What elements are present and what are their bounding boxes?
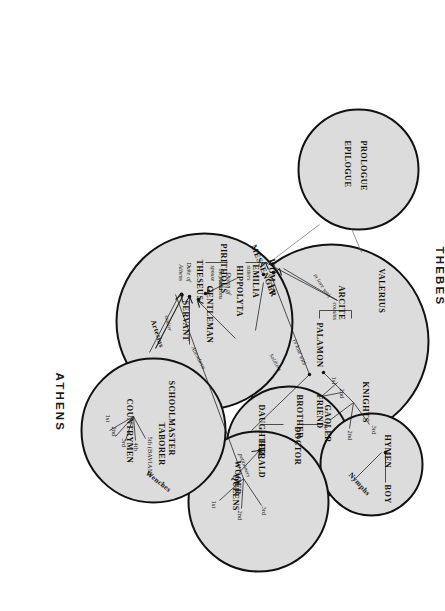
rel-spouse: spouse <box>209 265 215 281</box>
queen-ordinal-2nd: 2nd <box>236 510 243 520</box>
queen-ordinal-1st: 1st <box>210 500 217 508</box>
friend-ordinal-2nd: 2nd <box>338 388 345 398</box>
label-doctor: DOCTOR <box>292 426 301 465</box>
label-hymen: HYMEN <box>382 434 391 468</box>
label-knights: KNIGHTS <box>360 381 369 422</box>
theseus-role-line2: Athens <box>176 264 183 281</box>
rel-friend: friend <box>217 276 223 290</box>
label-servant: SERVANT <box>180 300 189 341</box>
friend-ordinal-1st: 1st <box>330 376 337 384</box>
label-gaoler: GAOLER <box>322 404 331 442</box>
queen-ordinal-3rd: 3rd <box>260 506 267 515</box>
label-hippolyta-main: HIPPOLYTA <box>234 265 243 316</box>
label-valerius: VALERIUS <box>376 268 385 313</box>
label-gentleman: GENTLEMAN <box>204 285 213 343</box>
label-prologue: PROLOGUE <box>358 140 367 190</box>
theseus-role-line1: Duke of <box>184 262 191 281</box>
knight-ordinal-3rd: 3rd <box>370 425 377 434</box>
group-label-thebes: THEBES <box>433 246 445 306</box>
countryman-ordinal-4th: 4th <box>132 442 139 450</box>
label-herald: HERALD <box>256 440 265 478</box>
label-taborer: TABORER <box>156 422 165 465</box>
label-boy: BOY <box>382 484 391 503</box>
label-countrymen: COUNTRYMEN <box>124 398 133 463</box>
countryman-ordinal-2nd: 2nd <box>110 426 117 436</box>
rel-sisters: sisters <box>245 265 251 280</box>
label-queens: QUEENS <box>230 474 239 510</box>
countryman-ordinal-1st: 1st <box>104 414 111 422</box>
hippolyta-role-line1: Queen of <box>224 272 231 294</box>
countryman-ordinal-3rd: 3rd <box>120 438 127 447</box>
knight-ordinal-2nd: 2nd <box>346 430 353 440</box>
label-woman: WOMAN <box>266 258 275 294</box>
rel-cousins: cousins <box>331 302 337 319</box>
label-theseus: THESEUS <box>194 259 203 300</box>
label-epilogue: EPILOGUE <box>342 140 351 187</box>
label-palamon: PALAMON <box>314 322 323 367</box>
label-schoolmaster: SCHOOLMASTER <box>166 380 175 455</box>
countryman-ordinal-5th-bavian: 5th (BAVIAN) <box>146 436 153 475</box>
group-label-athens: ATHENS <box>53 372 65 432</box>
